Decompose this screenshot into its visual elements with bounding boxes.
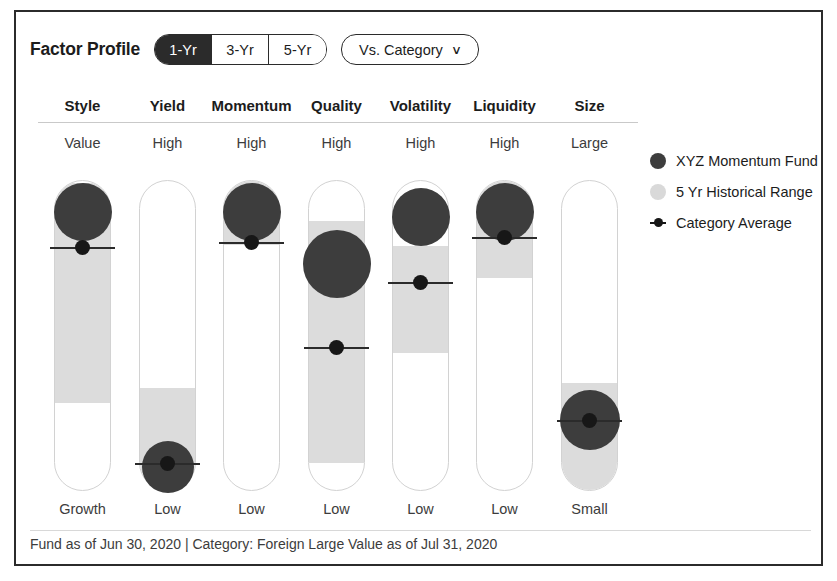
dark-circle-icon	[650, 153, 666, 169]
legend-item: XYZ Momentum Fund	[650, 145, 818, 176]
footer-divider	[30, 530, 811, 531]
footer-note: Fund as of Jun 30, 2020 | Category: Fore…	[30, 536, 497, 552]
factor-track-quality[interactable]	[308, 180, 365, 491]
header-divider	[38, 122, 638, 123]
fund-marker-momentum[interactable]	[223, 183, 281, 241]
fund-marker-volatility[interactable]	[392, 188, 450, 246]
historical-range-band	[393, 246, 448, 353]
fund-marker-style[interactable]	[54, 183, 112, 241]
factor-chart: StyleValueGrowthYieldHighLowMomentumHigh…	[16, 12, 825, 568]
legend-label: 5 Yr Historical Range	[676, 184, 813, 200]
legend-item: Category Average	[650, 207, 818, 238]
chart-legend: XYZ Momentum Fund5 Yr Historical RangeCa…	[650, 145, 818, 238]
top-label-size: Large	[530, 135, 650, 151]
legend-label: Category Average	[676, 215, 792, 231]
line-dot-icon	[650, 215, 666, 231]
column-header-size: Size	[530, 97, 650, 114]
bottom-label-size: Small	[530, 501, 650, 517]
legend-item: 5 Yr Historical Range	[650, 176, 818, 207]
fund-marker-quality[interactable]	[303, 230, 371, 298]
legend-label: XYZ Momentum Fund	[676, 153, 818, 169]
factor-profile-card: Factor Profile 1-Yr3-Yr5-Yr Vs. Category…	[14, 10, 823, 566]
light-circle-icon	[650, 184, 666, 200]
